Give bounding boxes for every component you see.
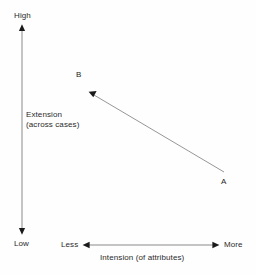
y-axis-title-line2: (across cases) bbox=[26, 120, 79, 130]
y-axis-arrowhead-up bbox=[19, 24, 25, 31]
a-to-b-arrow-line bbox=[94, 95, 224, 172]
x-axis-title: Intension (of attributes) bbox=[100, 253, 184, 263]
y-axis-title: Extension (across cases) bbox=[26, 110, 79, 130]
y-axis-arrowhead-down bbox=[19, 228, 25, 235]
x-axis-right-label: More bbox=[224, 240, 243, 250]
extension-intension-diagram: High Low Extension (across cases) Less M… bbox=[0, 0, 256, 275]
point-label-a: A bbox=[221, 177, 226, 187]
x-axis-left-label: Less bbox=[61, 240, 78, 250]
diagram-canvas bbox=[0, 0, 256, 275]
point-label-b: B bbox=[76, 70, 81, 80]
x-axis-arrowhead-right bbox=[212, 242, 219, 249]
y-axis-title-line1: Extension bbox=[26, 110, 62, 119]
a-to-b-arrowhead bbox=[89, 91, 97, 97]
y-axis-bottom-label: Low bbox=[14, 239, 29, 249]
x-axis-arrowhead-left bbox=[83, 242, 90, 249]
y-axis-top-label: High bbox=[14, 11, 31, 21]
